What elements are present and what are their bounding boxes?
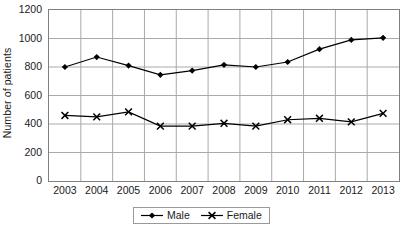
x-tick-label: 2005 xyxy=(117,184,140,196)
y-tick-label: 800 xyxy=(24,60,42,72)
x-tick-label: 2013 xyxy=(371,184,394,196)
data-point-marker-diamond xyxy=(94,54,100,60)
y-tick-label: 0 xyxy=(36,174,42,186)
legend-marker-x-icon xyxy=(201,210,223,221)
data-point-marker-diamond xyxy=(285,59,291,65)
data-point-marker-diamond xyxy=(157,72,163,78)
x-tick-label: 2012 xyxy=(340,184,363,196)
legend-marker-diamond-icon xyxy=(141,210,163,221)
data-series xyxy=(62,35,386,78)
x-axis-tick-labels: 2003200420052006200720082009201020112012… xyxy=(48,184,400,200)
data-point-marker-diamond xyxy=(62,64,68,70)
y-tick-label: 600 xyxy=(24,89,42,101)
horizontal-gridlines xyxy=(49,39,399,153)
x-tick-label: 2008 xyxy=(212,184,235,196)
y-axis-title: Number of patients xyxy=(0,0,14,186)
data-point-marker-diamond xyxy=(149,212,155,218)
data-point-marker-diamond xyxy=(253,64,259,70)
data-series xyxy=(62,108,387,129)
data-series-layer xyxy=(62,35,387,130)
y-tick-label: 1200 xyxy=(19,3,42,15)
plot-svg xyxy=(49,10,399,181)
x-tick-label: 2010 xyxy=(276,184,299,196)
data-point-marker-diamond xyxy=(348,37,354,43)
plot-area xyxy=(48,9,400,182)
y-tick-label: 1000 xyxy=(19,32,42,44)
chart-legend: MaleFemale xyxy=(133,207,270,224)
data-point-marker-diamond xyxy=(125,62,131,68)
x-tick-label: 2003 xyxy=(53,184,76,196)
data-point-marker-x xyxy=(380,110,387,117)
x-tick-label: 2011 xyxy=(308,184,331,196)
x-tick-label: 2004 xyxy=(85,184,108,196)
legend-entry: Male xyxy=(141,209,190,221)
legend-label: Female xyxy=(227,209,262,221)
data-point-marker-diamond xyxy=(189,67,195,73)
legend-entry: Female xyxy=(201,209,262,221)
y-axis-tick-labels: 020040060080010001200 xyxy=(14,0,45,190)
line-chart-figure: Number of patients 020040060080010001200… xyxy=(0,0,409,232)
y-tick-label: 400 xyxy=(24,117,42,129)
x-tick-label: 2007 xyxy=(180,184,203,196)
data-point-marker-diamond xyxy=(380,35,386,41)
y-tick-label: 200 xyxy=(24,146,42,158)
legend-label: Male xyxy=(167,209,190,221)
x-tick-label: 2009 xyxy=(244,184,267,196)
x-tick-label: 2006 xyxy=(149,184,172,196)
y-axis-title-text: Number of patients xyxy=(1,48,13,139)
data-point-marker-diamond xyxy=(316,46,322,52)
